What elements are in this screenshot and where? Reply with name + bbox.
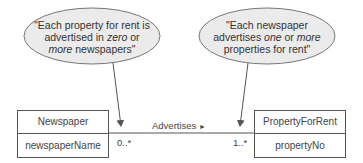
class-property-for-rent[interactable]: PropertyForRent propertyNo <box>254 110 346 158</box>
class-attribute: propertyNo <box>255 134 345 157</box>
direction-arrow-icon: ► <box>199 123 206 130</box>
class-name: PropertyForRent <box>255 111 345 134</box>
note-left-line1: "Each property for rent is <box>26 19 158 31</box>
note-right-line3: properties for rent" <box>201 43 333 55</box>
left-multiplicity: 0..* <box>117 137 131 148</box>
note-arrow-right <box>240 63 248 126</box>
class-attribute: newspaperName <box>18 134 108 157</box>
class-newspaper[interactable]: Newspaper newspaperName <box>17 110 109 158</box>
note-right-line2: advertises one or more <box>201 31 333 43</box>
note-right-line1: "Each newspaper <box>201 19 333 31</box>
note-left: "Each property for rent is advertised in… <box>26 19 158 55</box>
note-right: "Each newspaper advertises one or more p… <box>201 19 333 55</box>
note-left-line3: more newspapers" <box>26 43 158 55</box>
note-arrow-left <box>113 63 121 126</box>
association-label: Advertises ► <box>152 120 206 131</box>
note-left-line2: advertised in zero or <box>26 31 158 43</box>
right-multiplicity: 1..* <box>233 137 247 148</box>
class-name: Newspaper <box>18 111 108 134</box>
